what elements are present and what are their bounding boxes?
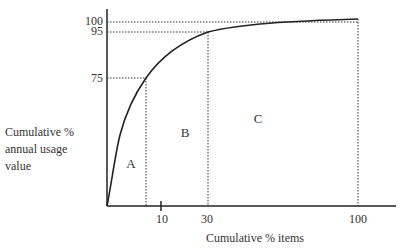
x-tick-label-100: 100 xyxy=(349,212,367,226)
y-axis-title-line-2: annual usage xyxy=(5,141,74,158)
y-tick-95: 95 xyxy=(91,24,103,38)
abc-curve xyxy=(107,19,358,206)
y-axis-title-line-1: Cumulative % xyxy=(5,124,74,141)
x-axis-title: Cumulative % items xyxy=(206,231,304,245)
region-label-c: C xyxy=(254,111,263,126)
x-tick-label-10: 10 xyxy=(156,212,168,226)
y-tick-75: 75 xyxy=(91,71,103,85)
region-label-a: A xyxy=(126,156,136,171)
region-label-b: B xyxy=(181,125,190,140)
y-axis-title: Cumulative % annual usage value xyxy=(5,124,74,175)
y-axis-title-line-3: value xyxy=(5,158,74,175)
x-tick-label-30: 30 xyxy=(201,212,213,226)
